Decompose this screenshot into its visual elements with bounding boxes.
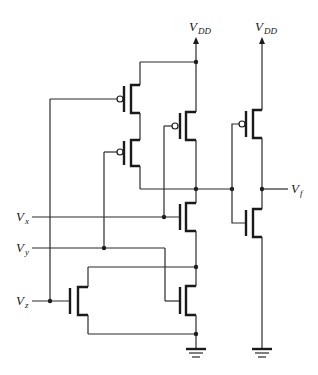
svg-text:DD: DD xyxy=(197,26,211,36)
ground-icon-1 xyxy=(186,334,206,357)
svg-text:x: x xyxy=(24,216,29,226)
svg-text:z: z xyxy=(24,300,29,310)
vdd-supply-2: V DD xyxy=(255,19,277,110)
ground-icon-2 xyxy=(252,349,272,357)
cmos-schematic: V DD V DD xyxy=(0,0,318,375)
inverter xyxy=(232,110,288,349)
vdd-supply-1: V DD xyxy=(189,19,211,62)
nmos-n2 xyxy=(165,248,196,334)
svg-text:f: f xyxy=(300,188,304,198)
pmos-p2 xyxy=(104,140,140,189)
svg-text:DD: DD xyxy=(263,26,277,36)
pmos-p3 xyxy=(164,112,196,189)
nmos-n1 xyxy=(32,126,196,267)
pmos-p1 xyxy=(50,62,140,140)
svg-text:y: y xyxy=(24,247,29,257)
